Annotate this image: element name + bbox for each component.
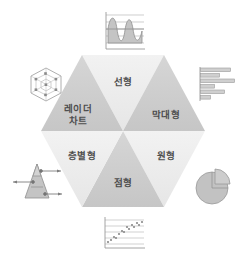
horizontal-bar-chart-icon <box>196 65 240 105</box>
segment-label-line: 선형 <box>93 76 153 87</box>
radar-chart-icon <box>22 63 70 107</box>
segment-label-pie: 원형 <box>141 150 191 161</box>
segment-label-scatter: 점형 <box>93 177 153 188</box>
pyramid-chart-icon <box>11 158 63 208</box>
pie-chart-icon <box>191 163 237 209</box>
segment-label-radar-line2: 차트 <box>49 115 107 127</box>
segment-label-bar: 막대형 <box>137 109 195 120</box>
scatter-plot-icon <box>99 214 149 256</box>
area-wave-chart-icon <box>101 9 147 53</box>
diagram-canvas: 선형 막대형 원형 점형 층별형 레이더 차트 <box>0 0 246 262</box>
